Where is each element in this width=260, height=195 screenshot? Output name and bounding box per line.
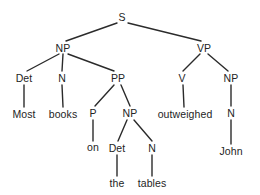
terminal-node-w-on: on (87, 142, 99, 153)
nonterminal-node-p: P (89, 108, 96, 119)
tree-edge-np2-to-det2 (118, 120, 127, 141)
tree-edge-np1-to-pp (68, 54, 114, 71)
nonterminal-node-det1: Det (16, 73, 33, 84)
nonterminal-node-s: S (118, 12, 125, 23)
nonterminal-node-n2: N (148, 143, 156, 154)
tree-edge-v-to-w-outweighed (183, 85, 184, 107)
terminal-node-w-most: Most (12, 109, 35, 120)
tree-edge-vp-to-v (183, 54, 200, 71)
nonterminal-node-pp: PP (111, 73, 125, 84)
tree-edge-pp-to-p (95, 85, 114, 106)
nonterminal-node-n3: N (227, 108, 235, 119)
tree-edge-np1-to-det1 (27, 54, 59, 71)
tree-edge-s-to-np1 (66, 23, 117, 41)
nonterminal-node-np3: NP (224, 73, 239, 84)
parse-tree-diagram: SNPVPDetNPPVNPMostbooksPNPoutweighedNonD… (0, 0, 260, 195)
terminal-node-w-the: the (110, 178, 125, 189)
tree-edge-s-to-vp (128, 23, 201, 41)
terminal-node-w-john: John (219, 146, 242, 157)
terminal-node-w-outweighed: outweighed (158, 109, 213, 120)
tree-edges-layer (0, 0, 260, 195)
tree-edge-np1-to-n1 (62, 54, 63, 71)
nonterminal-node-v: V (178, 73, 185, 84)
terminal-node-w-books: books (49, 109, 78, 120)
tree-edge-np2-to-n2 (134, 120, 152, 141)
nonterminal-node-np2: NP (123, 108, 138, 119)
nonterminal-node-det2: Det (109, 143, 126, 154)
nonterminal-node-vp: VP (197, 43, 211, 54)
tree-edge-vp-to-np3 (208, 54, 228, 71)
tree-edge-pp-to-np2 (121, 85, 130, 106)
terminal-node-w-tables: tables (138, 178, 167, 189)
nonterminal-node-np1: NP (56, 43, 71, 54)
nonterminal-node-n1: N (58, 73, 66, 84)
tree-edge-n1-to-w-books (62, 85, 63, 107)
